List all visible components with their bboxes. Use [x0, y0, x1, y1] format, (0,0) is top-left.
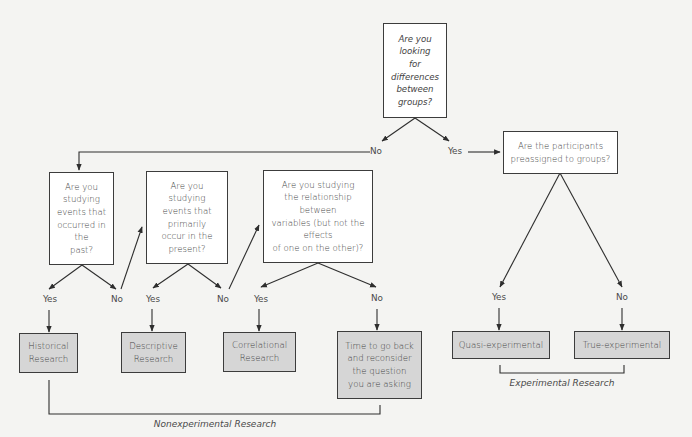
branch-label-preassigned-no: No [616, 292, 628, 302]
result-text: True-experimental [583, 339, 661, 352]
result-historical-research: Historical Research [19, 333, 78, 373]
question-text: Are the participants preassigned to grou… [511, 140, 611, 165]
question-events-in-past: Are you studying events that occurred in… [49, 172, 114, 265]
branch-label-preassigned-yes: Yes [492, 292, 506, 302]
result-text: Historical Research [28, 340, 68, 365]
result-text: Time to go back and reconsider the quest… [345, 340, 414, 390]
result-correlational-research: Correlational Research [223, 332, 296, 372]
question-participants-preassigned: Are the participants preassigned to grou… [503, 131, 618, 174]
result-text: Quasi-experimental [459, 339, 543, 352]
result-text: Descriptive Research [129, 340, 178, 365]
question-events-in-present: Are you studying events that primarily o… [146, 171, 228, 264]
question-text: Are you studying events that primarily o… [161, 180, 212, 256]
branch-label-past-no: No [111, 294, 123, 304]
branch-label-past-yes: Yes [43, 294, 57, 304]
question-text: Are you studying the relationship betwee… [271, 179, 364, 255]
branch-label-relationship-yes: Yes [254, 294, 268, 304]
question-relationship-between-variables: Are you studying the relationship betwee… [263, 170, 373, 263]
flowchart-canvas: Are you looking for differences between … [0, 0, 692, 437]
result-text: Correlational Research [232, 339, 287, 364]
question-text: Are you looking for differences between … [391, 33, 439, 109]
branch-label-present-no: No [217, 294, 229, 304]
category-label-nonexperimental: Nonexperimental Research [154, 419, 277, 429]
result-descriptive-research: Descriptive Research [121, 332, 186, 373]
branch-label-differences-yes: Yes [448, 146, 462, 156]
question-differences-between-groups: Are you looking for differences between … [383, 23, 447, 118]
result-true-experimental: True-experimental [574, 331, 670, 359]
result-reconsider-question: Time to go back and reconsider the quest… [337, 331, 422, 399]
result-quasi-experimental: Quasi-experimental [452, 331, 550, 359]
category-label-experimental: Experimental Research [510, 378, 615, 388]
question-text: Are you studying events that occurred in… [57, 181, 106, 257]
branch-label-differences-no: No [370, 146, 382, 156]
branch-label-present-yes: Yes [146, 294, 160, 304]
branch-label-relationship-no: No [371, 293, 383, 303]
